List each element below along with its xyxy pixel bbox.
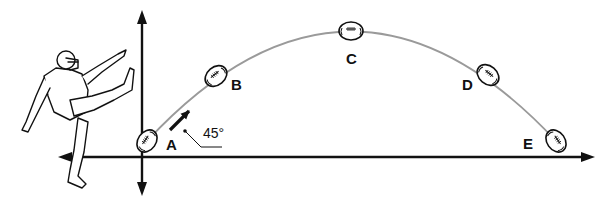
label-b: B [231,76,242,93]
kicker-figure [22,50,134,188]
projectile-diagram: 45° A B C D E [0,0,614,203]
x-axis-right-arrow-icon [581,152,595,162]
y-axis [137,10,147,196]
angle-label: 45° [203,125,224,141]
label-a: A [166,136,177,153]
x-axis-left-arrow-icon [58,152,72,162]
label-c: C [346,50,357,67]
y-axis-down-arrow-icon [137,182,147,196]
x-axis [58,152,595,162]
football-d-icon [473,60,503,89]
y-axis-up-arrow-icon [137,10,147,24]
label-d: D [462,76,473,93]
angle-indicator: 45° [183,125,224,147]
football-c-icon [339,22,363,40]
label-e: E [523,135,533,152]
